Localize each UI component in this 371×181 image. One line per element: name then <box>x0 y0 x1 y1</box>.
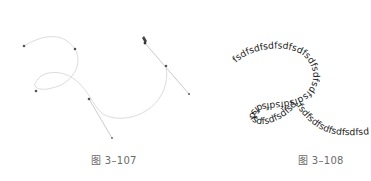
anchor-point[interactable] <box>88 98 91 101</box>
anchor-point[interactable] <box>165 65 168 68</box>
left-figure <box>23 36 190 139</box>
bezier-path <box>24 37 167 119</box>
figure-caption-3-108: 图 3–108 <box>298 152 344 167</box>
path-text: fsdfsdfsdfsdfsdfsdfsdfsdfsdfsdfsdfsdfsdf… <box>0 0 369 137</box>
direction-handle-line <box>89 99 112 138</box>
handle-endpoint[interactable] <box>111 137 113 139</box>
handle-endpoint[interactable] <box>188 93 190 95</box>
anchor-point[interactable] <box>35 90 38 93</box>
text-on-path: fsdfsdfsdfsdfsdfsdfsdfsdfsdfsdfsdfsdfsdf… <box>0 0 369 137</box>
pen-tool-cursor-icon <box>142 36 147 44</box>
figure-caption-3-107: 图 3–107 <box>91 152 137 167</box>
anchor-point[interactable] <box>74 48 77 51</box>
anchor-point[interactable] <box>23 45 26 48</box>
right-figure: fsdfsdfsdfsdfsdfsdfsdfsdfsdfsdfsdfsdfsdf… <box>0 0 369 137</box>
